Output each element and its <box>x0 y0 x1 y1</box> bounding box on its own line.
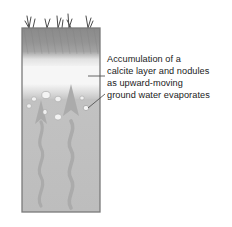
grass-tufts <box>25 14 93 28</box>
grass-tuft <box>25 16 35 28</box>
nodule <box>54 114 61 120</box>
annotation-line-1: Accumulation of a <box>107 53 231 65</box>
nodule <box>42 91 50 98</box>
grass-tuft <box>45 19 50 28</box>
nodule <box>31 97 36 101</box>
annotation-line-3: as upward-moving <box>107 77 231 89</box>
nodule <box>27 104 32 108</box>
annotation-line-4: ground water evaporates <box>107 89 231 101</box>
nodule <box>43 109 47 114</box>
nodule <box>80 96 84 100</box>
annotation-label: Accumulation of a calcite layer and nodu… <box>107 53 231 101</box>
nodule <box>55 96 61 102</box>
nodule-annotated <box>83 105 89 110</box>
topsoil-fade-band <box>22 52 100 68</box>
annotation-line-2: calcite layer and nodules <box>107 65 231 77</box>
soil-block-layers <box>22 28 100 212</box>
figure-root: Accumulation of a calcite layer and nodu… <box>0 0 232 227</box>
grass-tuft <box>57 16 63 28</box>
grass-tuft <box>86 16 93 28</box>
grass-tuft <box>67 14 72 28</box>
soil-profile-illustration <box>0 0 232 227</box>
